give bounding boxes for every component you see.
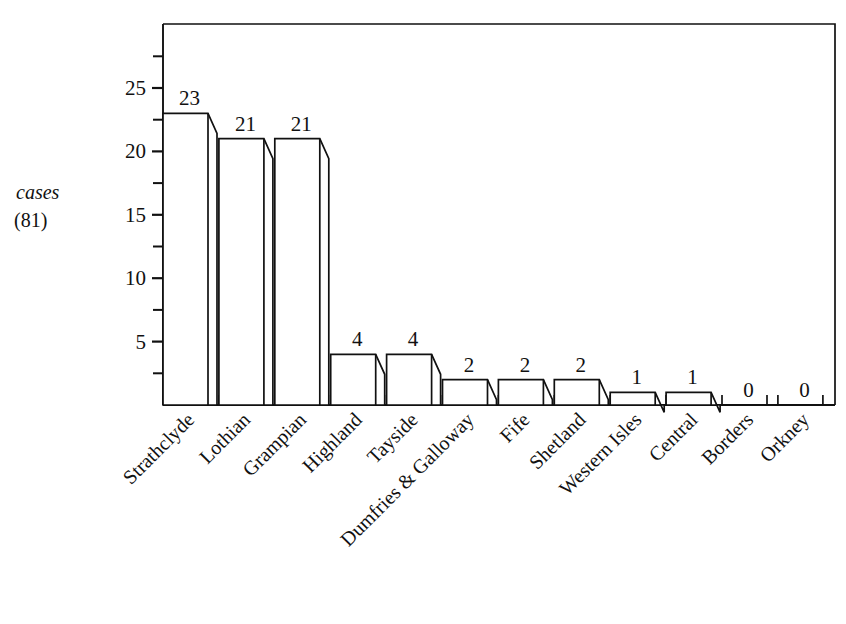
y-axis-tick-labels: 510152025: [125, 76, 146, 354]
bar-value-label: 21: [235, 112, 256, 136]
bar: [498, 380, 552, 405]
bar-value-label: 4: [352, 327, 363, 351]
bar: [163, 113, 217, 405]
bar-value-label: 2: [520, 353, 531, 377]
y-axis-title-line1: cases: [16, 181, 60, 203]
bar: [610, 392, 664, 412]
bar: [219, 139, 273, 405]
bar: [666, 392, 720, 412]
x-category-label: Borders: [697, 408, 757, 468]
bar-value-label: 0: [743, 378, 754, 402]
y-tick-label: 25: [125, 76, 146, 100]
x-axis-category-labels: StrathclydeLothianGrampianHighlandTaysid…: [118, 408, 814, 551]
bar-value-label: 2: [464, 353, 475, 377]
y-tick-label: 10: [125, 266, 146, 290]
bar-value-label: 1: [631, 365, 642, 389]
y-axis-title-line2: (81): [14, 209, 47, 232]
bar: [443, 380, 497, 405]
bar-value-label: 1: [687, 365, 698, 389]
y-axis-ticks: [152, 56, 163, 373]
y-tick-label: 5: [136, 330, 147, 354]
bar: [331, 354, 385, 405]
y-axis-title: cases (81): [14, 181, 60, 232]
bar-value-label: 4: [408, 327, 419, 351]
y-tick-label: 20: [125, 139, 146, 163]
bar-chart: 510152025 232121442221100 StrathclydeLot…: [0, 0, 846, 624]
y-tick-label: 15: [125, 203, 146, 227]
bar: [387, 354, 441, 405]
x-category-label: Orkney: [755, 408, 814, 467]
x-category-label: Central: [644, 408, 701, 465]
chart-canvas: 510152025 232121442221100 StrathclydeLot…: [0, 0, 846, 624]
bar-value-label: 23: [179, 86, 200, 110]
x-category-label: Fife: [495, 408, 533, 446]
x-category-label: Strathclyde: [118, 408, 199, 489]
x-category-label: Highland: [298, 408, 367, 477]
bar-value-label: 21: [291, 112, 312, 136]
bar: [275, 139, 329, 405]
bar: [554, 380, 608, 405]
bar-value-label: 2: [576, 353, 587, 377]
bar-value-label: 0: [799, 378, 810, 402]
